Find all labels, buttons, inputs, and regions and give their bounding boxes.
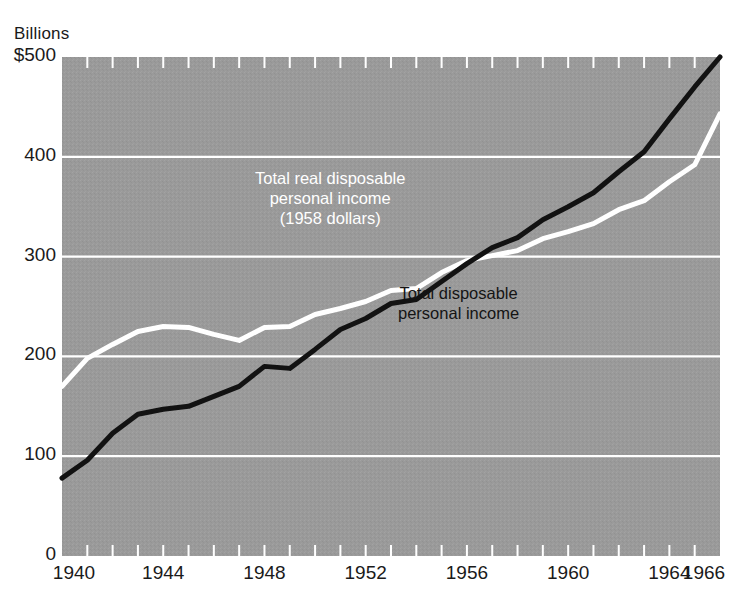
series-label-real-line1: Total real disposable [255,168,405,188]
plot-background [62,57,720,556]
x-tick-label: 1948 [243,562,285,584]
x-tick-label: 1966 [683,562,725,584]
x-tick-label: 1944 [142,562,184,584]
x-tick-label: 1960 [547,562,589,584]
x-tick-label: 1952 [345,562,387,584]
chart-figure: Billions 0100200300400$500 Total real di… [0,0,756,603]
series-label-nominal: Total disposable personal income [398,283,519,323]
series-label-nominal-line1: Total disposable [398,283,519,303]
series-label-real-line3: (1958 dollars) [255,208,405,228]
series-label-nominal-line2: personal income [398,303,519,323]
series-label-real-line2: personal income [255,188,405,208]
x-tick-label: 1956 [446,562,488,584]
plot-area [0,0,756,603]
x-tick-label: 1940 [53,562,95,584]
series-label-real: Total real disposable personal income (1… [255,168,405,228]
